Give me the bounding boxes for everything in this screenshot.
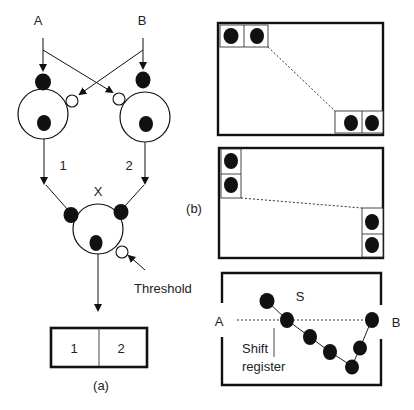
nucleus-dot xyxy=(139,116,153,132)
neuron-x-label: X xyxy=(94,184,103,199)
line-label-1: 1 xyxy=(59,158,66,173)
caption-b: (b) xyxy=(186,201,202,216)
threshold-label: Threshold xyxy=(134,281,192,296)
inhibitory-synapse xyxy=(113,93,125,105)
connector-2-to-x xyxy=(124,185,144,207)
connector-1-to-x xyxy=(46,185,68,210)
threshold-circle xyxy=(116,246,128,258)
box-horizontal-pairs xyxy=(218,23,383,135)
inhibitory-synapse xyxy=(66,95,78,107)
synapse-dot xyxy=(114,204,129,220)
neuron-left xyxy=(18,74,78,140)
nucleus-dot xyxy=(90,235,103,251)
caption-a: (a) xyxy=(93,378,109,393)
shift-register-label-1: Shift xyxy=(242,341,268,356)
register-cell-1: 1 xyxy=(70,341,77,356)
shift-register-label-2: register xyxy=(242,359,286,374)
register-cell-2: 2 xyxy=(117,341,124,356)
input-label-b: B xyxy=(138,13,147,28)
diagram-canvas: A B 1 2 X xyxy=(0,0,414,410)
synapse-dot xyxy=(35,74,51,91)
label-s: S xyxy=(296,289,305,304)
neuron-right xyxy=(113,72,170,143)
register-box: 1 2 xyxy=(51,328,147,367)
arrow-a-to-right-inhibit xyxy=(43,50,112,92)
synapse-dot xyxy=(64,207,79,223)
line-label-2: 2 xyxy=(125,158,132,173)
nucleus-dot xyxy=(37,115,51,131)
box-vertical-pairs xyxy=(219,148,383,258)
panel-b: (b) xyxy=(186,23,400,385)
arrow-b-to-left-inhibit xyxy=(80,50,143,94)
input-label-a: A xyxy=(34,13,43,28)
neuron-x xyxy=(64,204,129,258)
box-shift-register: S A B Shift register xyxy=(215,273,401,385)
label-b: B xyxy=(392,315,401,330)
panel-a: A B 1 2 X xyxy=(18,13,192,393)
label-a: A xyxy=(215,314,224,329)
threshold-arrow xyxy=(129,256,145,270)
synapse-dot xyxy=(136,72,151,89)
